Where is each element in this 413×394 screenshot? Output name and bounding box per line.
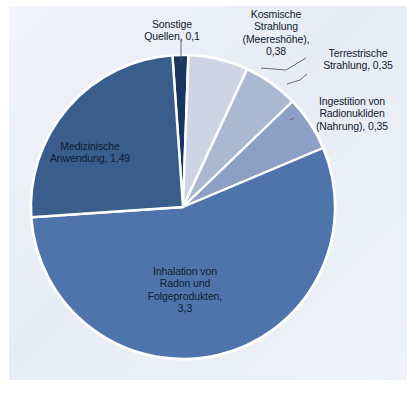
slice-label-ingestition-radionukliden: Ingestition von Radionukliden (Nahrung),… — [296, 95, 408, 132]
slice-label-sonstige-quellen: Sonstige Quellen, 0,1 — [126, 18, 218, 43]
pie-slice-medizinische-anwendung[interactable] — [31, 55, 183, 217]
slice-label-inhalation-radon: Inhalation von Radon und Folgeprodukten,… — [128, 265, 242, 315]
pie-chart-figure: Sonstige Quellen, 0,1 Kosmische Strahlun… — [0, 0, 413, 394]
leader-line-kosmische — [261, 58, 306, 70]
slice-label-terrestrische-strahlung: Terrestrische Strahlung, 0,35 — [308, 47, 408, 72]
slice-label-medizinische-anwendung: Medizinische Anwendung, 1,49 — [32, 140, 148, 165]
leader-line-terrestrische — [287, 74, 307, 84]
